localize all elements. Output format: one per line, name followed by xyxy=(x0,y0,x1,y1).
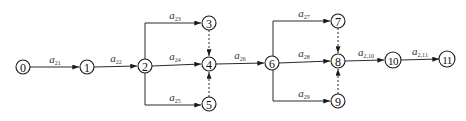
edge-label-8-10: a2,10 xyxy=(358,46,374,59)
edge-6-8 xyxy=(279,61,330,63)
node-label: 9 xyxy=(335,95,341,109)
edge-labels: a21 a22 a23 a24 a25 a26 a27 a28 a29 a2,1… xyxy=(49,7,428,104)
edge-label-0-1: a21 xyxy=(49,53,61,66)
node-label: 10 xyxy=(388,55,399,67)
node-label: 0 xyxy=(20,61,26,75)
node-label: 11 xyxy=(442,54,452,66)
node-2: 2 xyxy=(138,59,152,74)
edge-label-1-2: a22 xyxy=(110,52,122,65)
node-0: 0 xyxy=(16,60,30,75)
node-label: 1 xyxy=(84,61,90,75)
edge-label-6-9: a29 xyxy=(298,87,310,100)
node-1: 1 xyxy=(80,60,94,75)
edge-8-10 xyxy=(345,60,384,61)
node-label: 5 xyxy=(206,98,212,112)
node-4: 4 xyxy=(202,57,216,72)
edge-4-6 xyxy=(216,63,264,64)
node-label: 6 xyxy=(269,57,275,71)
node-7: 7 xyxy=(331,14,345,29)
edge-1-2 xyxy=(94,66,137,67)
node-label: 4 xyxy=(206,58,212,72)
nodes: 0 1 2 3 4 5 6 7 xyxy=(16,14,455,112)
edge-label-2-4: a24 xyxy=(169,50,181,63)
node-11: 11 xyxy=(439,51,455,67)
node-6: 6 xyxy=(265,56,279,71)
node-10: 10 xyxy=(385,52,401,68)
edge-label-6-8: a28 xyxy=(298,47,310,60)
node-5: 5 xyxy=(202,97,216,112)
node-label: 2 xyxy=(142,60,148,74)
edge-label-2-3: a23 xyxy=(169,9,181,22)
node-3: 3 xyxy=(202,16,216,31)
node-label: 7 xyxy=(335,15,341,29)
edge-label-6-7: a27 xyxy=(298,7,310,20)
network-diagram: a21 a22 a23 a24 a25 a26 a27 a28 a29 a2,1… xyxy=(0,0,466,121)
node-9: 9 xyxy=(331,94,345,109)
node-label: 8 xyxy=(335,55,341,69)
edge-2-4 xyxy=(152,64,201,66)
edge-label-10-11: a2,11 xyxy=(412,45,428,58)
edge-10-11 xyxy=(401,59,439,60)
node-8: 8 xyxy=(331,54,345,69)
edge-label-4-6: a26 xyxy=(234,49,246,62)
node-label: 3 xyxy=(206,17,212,31)
edge-label-2-5: a25 xyxy=(169,91,181,104)
